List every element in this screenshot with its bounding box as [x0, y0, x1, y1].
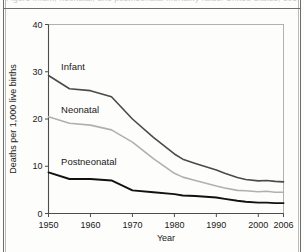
x-axis-title: Year	[157, 233, 175, 243]
y-axis-title: Deaths per 1,000 live births	[8, 64, 18, 174]
x-tick-label: 1990	[206, 220, 226, 230]
chart-axes	[49, 25, 284, 214]
x-tick-label: 2006	[273, 220, 293, 230]
series-line-neonatal	[49, 117, 284, 193]
y-tick-label: 30	[32, 67, 42, 77]
series-label-postneonatal: Postneonatal	[61, 156, 116, 167]
chart-svg: 1950196019701980199020002006 010203040 I…	[0, 8, 304, 252]
series-label-neonatal: Neonatal	[61, 104, 99, 115]
figure-container: Figure infant, neonatal, and postneonata…	[0, 0, 304, 252]
x-tick-label: 1980	[164, 220, 184, 230]
y-tick-label: 40	[32, 20, 42, 30]
cropped-caption: Figure infant, neonatal, and postneonata…	[6, 0, 298, 7]
y-tick-label: 20	[32, 114, 42, 124]
y-tick-label: 0	[37, 209, 42, 219]
y-axis-ticks: 010203040	[32, 20, 48, 219]
x-tick-label: 1950	[38, 220, 58, 230]
cropped-caption-text: Figure infant, neonatal, and postneonata…	[6, 0, 298, 2]
plot-frame	[49, 25, 284, 214]
x-tick-label: 2000	[248, 220, 268, 230]
series-labels: InfantNeonatalPostneonatal	[61, 61, 116, 167]
series-line-postneonatal	[49, 172, 284, 203]
x-tick-label: 1960	[80, 220, 100, 230]
line-chart: 1950196019701980199020002006 010203040 I…	[0, 8, 304, 252]
y-tick-label: 10	[32, 161, 42, 171]
series-label-infant: Infant	[61, 61, 85, 72]
x-tick-label: 1970	[122, 220, 142, 230]
x-axis-ticks: 1950196019701980199020002006	[38, 214, 293, 230]
chart-series-group	[49, 76, 284, 204]
